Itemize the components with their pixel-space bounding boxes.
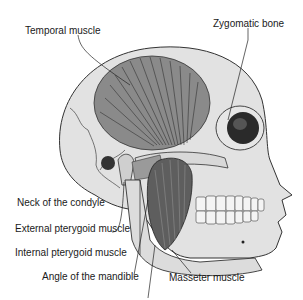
temporal-muscle xyxy=(94,56,210,150)
label-angle-of-mandible: Angle of the mandible xyxy=(42,271,139,282)
external-auditory-meatus xyxy=(101,156,115,170)
teeth xyxy=(196,196,264,224)
mental-foramen xyxy=(242,241,245,244)
orbit-shade xyxy=(233,118,247,130)
label-external-pterygoid: External pterygoid muscle xyxy=(15,223,130,234)
label-neck-of-condyle: Neck of the condyle xyxy=(17,197,105,208)
label-internal-pterygoid: Internal pterygoid muscle xyxy=(15,247,127,258)
label-masseter-muscle: Masseter muscle xyxy=(169,272,245,283)
label-temporal-muscle: Temporal muscle xyxy=(25,25,101,36)
skull-diagram: Temporal muscle Zygomatic bone Neck of t… xyxy=(0,0,303,300)
label-zygomatic-bone: Zygomatic bone xyxy=(213,18,285,29)
